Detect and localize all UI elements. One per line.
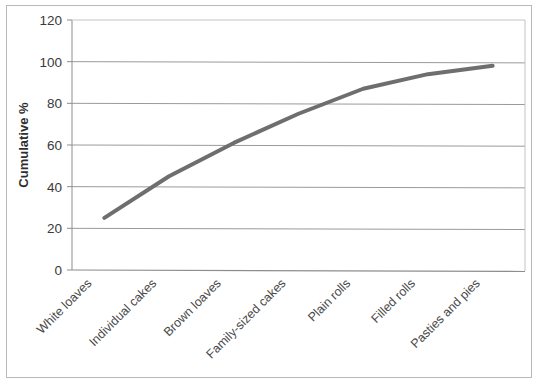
x-axis-line [72,270,525,272]
x-category-label: Individual cakes [86,276,159,349]
y-tick-label: 40 [47,180,62,195]
pareto-cumulative-line-chart: 020406080100120 White loavesIndividual c… [0,0,539,384]
y-tick-labels-group: 020406080100120 [39,13,62,278]
y-tick-label: 60 [47,138,62,153]
x-category-label: Pasties and pies [408,276,483,351]
x-category-label: Filled rolls [368,276,418,326]
y-tick-label: 120 [39,13,62,28]
x-category-label: Brown loaves [161,276,224,339]
y-axis-title: Cumulative % [16,102,31,188]
x-category-label: Plain rolls [305,276,353,324]
y-tick-label: 80 [47,96,62,111]
x-category-label: White loaves [34,276,95,337]
chart-figure: 020406080100120 White loavesIndividual c… [0,0,539,384]
x-category-labels-group: White loavesIndividual cakesBrown loaves… [34,276,483,361]
y-tick-marks-group [67,20,72,270]
y-tick-label: 20 [47,221,62,236]
y-tick-label: 0 [54,263,62,278]
y-tick-label: 100 [39,55,62,70]
